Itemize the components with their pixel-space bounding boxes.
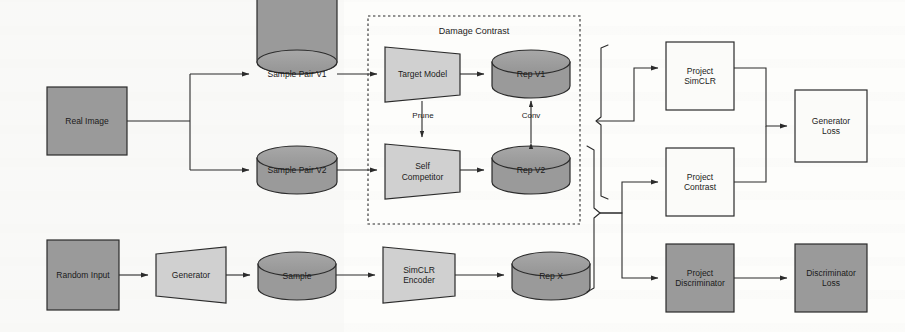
node-generator[interactable] (156, 247, 226, 303)
node-real-image[interactable] (47, 87, 127, 155)
node-rep-x[interactable] (512, 252, 590, 300)
node-target-model[interactable] (385, 47, 460, 102)
brace-top-rep-v1-rep-x (596, 45, 608, 199)
edge-project-contrast-to-generator-loss (734, 126, 766, 182)
edge-project-simclr-to-generator-loss (734, 68, 787, 126)
node-sample-pair-v2[interactable] (257, 146, 337, 194)
node-project-discriminator[interactable] (666, 244, 734, 312)
edge-brace-top-to-project-simclr (596, 68, 658, 121)
node-random-input[interactable] (47, 240, 119, 310)
node-project-simclr[interactable] (666, 42, 734, 110)
edge-brace-bottom-to-project-discriminator (600, 213, 658, 278)
node-sample-pair-v1[interactable] (257, 0, 337, 74)
diagram-canvas: Damage Contrast Real Image Sample Pair V… (0, 0, 905, 332)
diagram-vector-layer (0, 0, 905, 332)
node-rep-v2[interactable] (492, 146, 570, 194)
node-self-competitor[interactable] (385, 144, 460, 199)
edge-brace-bottom-to-project-contrast (600, 182, 658, 213)
node-rep-v1[interactable] (492, 50, 570, 98)
node-discriminator-loss[interactable] (795, 244, 867, 312)
node-project-contrast[interactable] (666, 148, 734, 216)
node-generator-loss[interactable] (795, 90, 867, 162)
node-sample[interactable] (258, 252, 336, 300)
node-simclr-encoder[interactable] (383, 247, 455, 303)
